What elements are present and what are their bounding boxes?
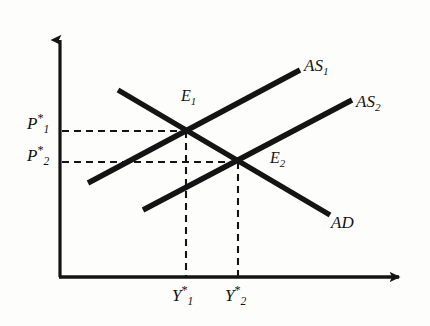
equilibrium-label-e1: E1 <box>181 88 196 107</box>
curve-label-as2-text: AS <box>356 92 375 111</box>
curve-label-ad-text: AD <box>331 213 354 232</box>
price-axis-label-p2: P*2 <box>27 144 49 168</box>
price-axis-label-p1-subscript: 1 <box>44 123 50 136</box>
output-axis-label-y1: Y*1 <box>172 284 193 308</box>
price-axis-label-p2-subscript: 2 <box>44 155 50 168</box>
curve-label-as2-subscript: 2 <box>375 101 381 113</box>
price-axis-label-p2-base: P <box>27 146 37 165</box>
output-axis-label-y2-subscript: 2 <box>241 295 247 308</box>
equilibrium-label-e1-subscript: 1 <box>191 95 196 107</box>
curve-label-ad: AD <box>331 214 354 231</box>
curve-label-as1-text: AS <box>304 56 323 75</box>
ad-as-diagram-figure: AS1 AS2 AD E1 E2 P*1 P*2 Y*1 Y*2 <box>0 0 430 326</box>
curve-as1 <box>88 70 300 183</box>
curve-label-as2: AS2 <box>356 93 381 114</box>
equilibrium-label-e2-subscript: 2 <box>280 157 285 169</box>
price-axis-label-p1-base: P <box>27 114 37 133</box>
curve-label-as1: AS1 <box>304 57 329 78</box>
diagram-canvas <box>0 0 430 326</box>
equilibrium-label-e1-text: E <box>181 87 191 104</box>
price-axis-label-p1: P*1 <box>27 112 49 136</box>
equilibrium-label-e2: E2 <box>270 150 285 169</box>
output-axis-label-y2: Y*2 <box>225 284 246 308</box>
equilibrium-label-e2-text: E <box>270 149 280 166</box>
curve-label-as1-subscript: 1 <box>323 65 329 77</box>
curve-as2 <box>143 100 352 210</box>
output-axis-label-y1-subscript: 1 <box>188 295 194 308</box>
